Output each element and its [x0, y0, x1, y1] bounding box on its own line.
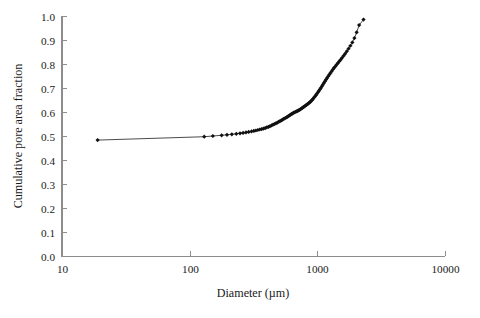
x-tick-label: 1000	[306, 263, 329, 275]
data-point	[220, 133, 224, 137]
data-point	[355, 30, 359, 34]
data-point	[234, 132, 238, 136]
data-point	[95, 138, 99, 142]
x-tick-label: 10	[57, 263, 69, 275]
y-tick-label: 0.1	[41, 227, 55, 239]
x-tick-label: 100	[182, 263, 199, 275]
x-axis-title: Diameter (µm)	[217, 286, 289, 300]
series-markers	[95, 18, 365, 143]
x-axis-ticks	[63, 251, 446, 256]
y-tick-label: 0.2	[41, 203, 55, 215]
data-point	[352, 36, 356, 40]
data-point	[230, 132, 234, 136]
y-tick-label: 1.0	[41, 11, 55, 23]
x-axis: 10100100010000	[57, 251, 460, 275]
y-tick-label: 0.5	[41, 131, 55, 143]
y-tick-label: 0.4	[41, 155, 55, 167]
data-point	[225, 133, 229, 137]
data-point	[202, 135, 206, 139]
y-tick-label: 0.0	[41, 251, 55, 263]
data-point	[211, 134, 215, 138]
y-tick-label: 0.9	[41, 35, 55, 47]
y-axis-tick-labels: 0.00.10.20.30.40.50.60.70.80.91.0	[41, 11, 55, 263]
y-tick-label: 0.8	[41, 59, 55, 71]
y-tick-label: 0.7	[41, 83, 55, 95]
y-axis-title: Cumulative pore area fraction	[11, 64, 25, 209]
data-series-cumulative-pore-area-fraction	[95, 18, 365, 143]
chart-figure: 0.00.10.20.30.40.50.60.70.80.91.0 101001…	[0, 0, 480, 318]
x-tick-label: 10000	[432, 263, 460, 275]
y-axis-ticks	[62, 17, 67, 257]
chart-canvas: 0.00.10.20.30.40.50.60.70.80.91.0 101001…	[0, 0, 480, 318]
y-tick-label: 0.6	[41, 107, 55, 119]
data-point	[350, 40, 354, 44]
y-axis: 0.00.10.20.30.40.50.60.70.80.91.0	[41, 11, 67, 263]
x-axis-tick-labels: 10100100010000	[57, 263, 460, 275]
series-line	[98, 20, 364, 140]
y-tick-label: 0.3	[41, 179, 55, 191]
